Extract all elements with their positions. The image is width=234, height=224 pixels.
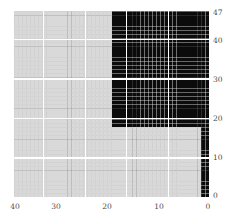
y-axis-tick-label: 30 [213, 76, 223, 84]
y-axis-tick-label: 10 [213, 154, 223, 162]
heatmap-figure: 403020100 47403020100 [0, 0, 234, 224]
x-axis-tick-label: 40 [10, 203, 20, 211]
y-axis-tick-label: 0 [213, 192, 218, 200]
heatmap-cell [205, 193, 209, 197]
x-axis-tick-label: 30 [51, 203, 61, 211]
x-axis-tick-label: 10 [154, 203, 164, 211]
y-axis-tick-label: 40 [213, 37, 223, 45]
x-axis-tick-label: 0 [206, 203, 211, 211]
x-axis-tick-label: 20 [102, 203, 112, 211]
y-axis-tick-label: 20 [213, 115, 223, 123]
plot-area [14, 11, 209, 197]
y-axis-tick-label: 47 [213, 9, 223, 17]
heatmap-cell-grid [14, 11, 209, 197]
